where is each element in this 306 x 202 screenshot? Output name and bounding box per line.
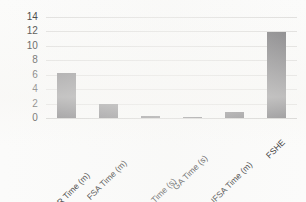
y-tick-label: 2 [32,99,38,109]
bar-series [46,17,297,118]
y-tick-label: 6 [32,70,38,80]
y-tick-label: 4 [32,84,38,94]
x-tick-label: RS-IHS-QR Time (s) [116,177,177,202]
chart-screenshot: 02468101214 PSO-QR Time (m)FSA Time (m)R… [0,0,306,202]
bar [57,73,76,118]
plot-area [46,17,297,118]
x-tick-label: PSO-QR Time (m) [36,171,91,202]
x-tick-label: FSA Time (m) [85,159,128,202]
bar [267,32,286,118]
x-tick-label: FSHE [265,138,287,160]
y-tick-label: 10 [27,41,38,51]
y-tick-label: 12 [27,26,38,36]
x-tick-label: IFSA Time (m) [210,160,255,202]
y-tick-label: 8 [32,55,38,65]
x-tick-label: GA Time (s) [172,154,210,192]
y-axis: 02468101214 [0,17,43,118]
y-tick-label: 14 [27,12,38,22]
bar [99,104,118,118]
x-axis: PSO-QR Time (m)FSA Time (m)RS-IHS-QR Tim… [0,118,306,202]
